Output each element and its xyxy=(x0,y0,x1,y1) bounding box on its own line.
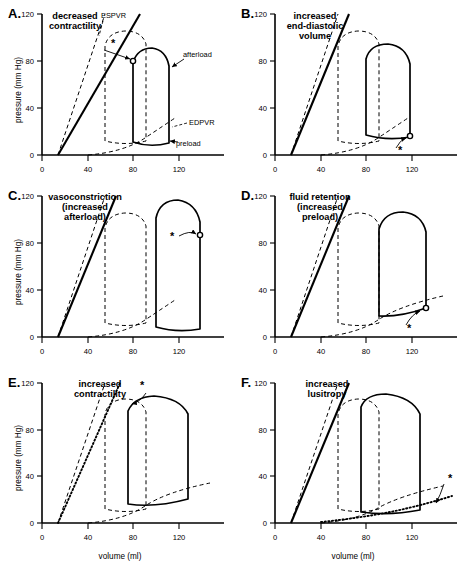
panel-c-letter: C. xyxy=(8,188,21,203)
panel-c-reference-loop xyxy=(105,213,146,326)
panel-a-title-line-1: decreased xyxy=(52,11,97,21)
panel-a-ytick-80: 80 xyxy=(26,57,34,66)
panel-a-y-ticks: 0 40 80 120 xyxy=(21,10,42,160)
panel-a-reference-edpvr xyxy=(88,118,175,155)
panel-f-xtick-80: 80 xyxy=(362,533,370,542)
panel-d-asterisk: * xyxy=(407,322,412,334)
panel-e-y-axis-title: pressure (mm Hg) xyxy=(14,425,23,491)
panel-d-loop xyxy=(379,212,426,316)
panel-c-title-line-3: afterload) xyxy=(64,212,106,222)
panel-f-ytick-40: 40 xyxy=(259,472,267,481)
panel-b-loop xyxy=(366,44,410,139)
panel-e-title-line-1: increased xyxy=(79,379,122,389)
panel-b-ytick-40: 40 xyxy=(259,104,267,113)
panel-b: B. increased end-diastolic volume 0 40 8… xyxy=(241,6,457,174)
panel-b-xtick-120: 120 xyxy=(406,165,419,174)
panel-a-xtick-0: 0 xyxy=(40,165,44,174)
panel-f-reference-espvr xyxy=(291,383,338,523)
panel-a-asterisk-arrow xyxy=(104,50,130,59)
panel-d-ytick-40: 40 xyxy=(259,286,267,295)
panel-f-letter: F. xyxy=(241,375,251,390)
panel-c-xtick-80: 80 xyxy=(129,347,137,356)
panel-a: A. decreased contractility pressure (mm … xyxy=(8,6,224,174)
panel-c-title-line-1: vasoconstriction xyxy=(48,192,122,202)
panel-f-title-line-2: lusitropy xyxy=(308,389,348,399)
panel-e-loop xyxy=(128,396,188,505)
panel-a-label-espvr: ESPVR xyxy=(101,11,126,20)
panel-d-ytick-0: 0 xyxy=(263,333,267,342)
panel-b-ytick-80: 80 xyxy=(259,57,267,66)
panel-f-title-line-1: increased xyxy=(306,379,349,389)
panel-d-xtick-80: 80 xyxy=(362,347,370,356)
panel-b-asterisk: * xyxy=(398,144,403,156)
panel-e-x-axis-title: volume (ml) xyxy=(99,552,142,561)
panel-a-ytick-0: 0 xyxy=(30,151,34,160)
panel-a-label-afterload: afterload xyxy=(183,50,212,59)
panel-e-ytick-120: 120 xyxy=(21,379,34,388)
panel-d-xtick-120: 120 xyxy=(406,347,419,356)
panel-a-ytick-40: 40 xyxy=(26,104,34,113)
panel-f-xtick-0: 0 xyxy=(273,533,277,542)
panel-f-loop xyxy=(361,394,420,514)
panel-c-ytick-40: 40 xyxy=(26,286,34,295)
panel-e-xtick-40: 40 xyxy=(84,533,92,542)
panel-f: F. increased lusitropy volume (ml) 0 40 … xyxy=(241,375,457,561)
panel-e-ytick-80: 80 xyxy=(26,426,34,435)
panel-a-loop xyxy=(133,48,169,145)
panel-d-end-diastolic-point xyxy=(423,305,428,310)
panel-a-title-line-2: contractility xyxy=(49,21,102,31)
panel-d-xtick-40: 40 xyxy=(317,347,325,356)
panel-d-title-line-3: preload) xyxy=(302,212,338,222)
panel-e-ytick-0: 0 xyxy=(30,519,34,528)
panel-b-end-diastolic-point xyxy=(407,133,412,138)
panel-a-letter: A. xyxy=(8,6,21,21)
panel-e-reference-loop xyxy=(105,399,146,512)
panel-f-xtick-40: 40 xyxy=(317,533,325,542)
panel-e-y-ticks: 0 40 80 120 xyxy=(21,379,42,528)
panel-c-asterisk: * xyxy=(170,230,175,242)
panel-a-label-preload: preload xyxy=(176,139,201,148)
panel-b-title-line-3: volume xyxy=(299,31,331,41)
panel-a-label-edpvr: EDPVR xyxy=(189,118,214,127)
panel-a-ytick-120: 120 xyxy=(21,10,34,19)
panel-f-asterisk: * xyxy=(448,472,453,484)
panel-d-y-ticks: 0 40 80 120 xyxy=(254,192,275,342)
panel-c-ytick-0: 0 xyxy=(30,333,34,342)
panel-b-xtick-80: 80 xyxy=(362,165,370,174)
panel-c-xtick-0: 0 xyxy=(40,347,44,356)
panel-d-ytick-120: 120 xyxy=(254,192,267,201)
panel-a-xtick-80: 80 xyxy=(129,165,137,174)
panel-d-xtick-0: 0 xyxy=(273,347,277,356)
panel-c-xtick-120: 120 xyxy=(173,347,186,356)
panel-f-y-ticks: 0 40 80 120 xyxy=(254,379,275,528)
panel-c-ytick-120: 120 xyxy=(21,192,34,201)
panel-a-asterisk: * xyxy=(111,37,116,49)
panel-c-y-ticks: 0 40 80 120 xyxy=(21,192,42,342)
panel-d-letter: D. xyxy=(241,188,254,203)
panel-e-reference-edpvr xyxy=(88,483,210,523)
panel-e-espvr-line xyxy=(58,383,120,523)
panel-b-reference-edpvr xyxy=(321,118,408,155)
panel-e-ytick-40: 40 xyxy=(26,472,34,481)
panel-a-end-systolic-point xyxy=(130,58,135,63)
panel-b-ytick-120: 120 xyxy=(254,10,267,19)
panel-b-y-ticks: 0 40 80 120 xyxy=(254,10,275,160)
panel-c-asterisk-arrow xyxy=(179,232,196,236)
panel-f-ytick-0: 0 xyxy=(263,519,267,528)
panel-d-title-line-1: fluid retention xyxy=(289,192,351,202)
panel-a-espvr-line xyxy=(58,14,140,155)
panel-f-xtick-120: 120 xyxy=(406,533,419,542)
panel-e-xtick-80: 80 xyxy=(129,533,137,542)
panel-e-asterisk: * xyxy=(140,379,145,391)
panel-c-reference-edpvr xyxy=(88,300,175,337)
panel-b-letter: B. xyxy=(241,6,254,21)
panel-d-ytick-80: 80 xyxy=(259,239,267,248)
panel-e-xtick-120: 120 xyxy=(173,533,186,542)
panel-a-afterload-arrow xyxy=(172,59,184,67)
panel-c-loop xyxy=(156,200,200,331)
panel-b-title-line-1: increased xyxy=(294,11,337,21)
panel-b-x-ticks: 0 40 80 120 xyxy=(273,155,418,174)
panel-e-reference-espvr xyxy=(58,383,105,523)
panel-c-end-systolic-point xyxy=(197,232,202,237)
panel-f-ytick-80: 80 xyxy=(259,426,267,435)
